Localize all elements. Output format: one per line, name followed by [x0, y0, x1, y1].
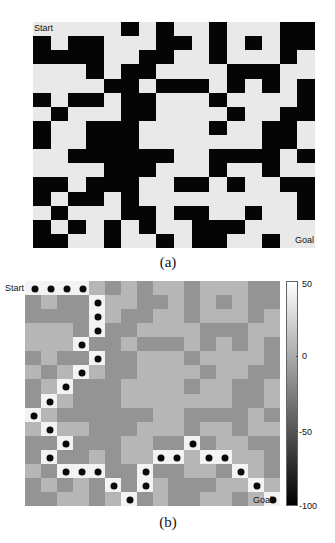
path-dot: [238, 468, 245, 475]
path-dots: [25, 281, 280, 506]
maze-cell: [280, 22, 298, 36]
maze-cell: [104, 135, 122, 149]
maze-cell: [86, 220, 104, 234]
maze-cell: [280, 135, 298, 149]
maze-cell: [121, 177, 139, 191]
maze-cell: [86, 234, 104, 248]
maze-cell: [174, 64, 192, 78]
maze-cell: [68, 220, 86, 234]
maze-cell: [156, 121, 174, 135]
maze-cell: [121, 163, 139, 177]
maze-cell: [174, 121, 192, 135]
maze-cell: [121, 149, 139, 163]
maze-cell: [227, 192, 245, 206]
maze-cell: [209, 192, 227, 206]
maze-cell: [121, 64, 139, 78]
maze-cell: [51, 36, 69, 50]
maze-cell: [227, 163, 245, 177]
maze-cell: [139, 192, 157, 206]
maze-cell: [33, 135, 51, 149]
maze-cell: [174, 177, 192, 191]
maze-cell: [156, 220, 174, 234]
maze-cell: [156, 22, 174, 36]
maze-cell: [262, 22, 280, 36]
path-dot: [222, 454, 229, 461]
maze-cell: [245, 93, 263, 107]
maze-cell: [192, 177, 210, 191]
path-dot: [46, 398, 53, 405]
path-dot: [62, 468, 69, 475]
path-dot: [190, 440, 197, 447]
maze-cell: [156, 93, 174, 107]
maze-cell: [297, 163, 315, 177]
maze-cell: [121, 93, 139, 107]
maze-cell: [51, 206, 69, 220]
maze-cell: [139, 79, 157, 93]
maze-cell: [245, 50, 263, 64]
maze-cell: [280, 107, 298, 121]
maze-cell: [33, 192, 51, 206]
maze-cell: [51, 50, 69, 64]
maze-cell: [262, 64, 280, 78]
maze-cell: [280, 121, 298, 135]
maze-cell: [51, 107, 69, 121]
maze-cell: [192, 50, 210, 64]
maze-cell: [156, 135, 174, 149]
maze-cell: [192, 79, 210, 93]
maze-cell: [156, 50, 174, 64]
maze-cell: [174, 93, 192, 107]
maze-cell: [33, 234, 51, 248]
maze-cell: [68, 206, 86, 220]
maze-cell: [86, 206, 104, 220]
maze-cell: [104, 192, 122, 206]
maze-cell: [68, 64, 86, 78]
maze-cell: [51, 234, 69, 248]
caption-a: (a): [148, 254, 188, 271]
maze-cell: [280, 220, 298, 234]
maze-cell: [297, 50, 315, 64]
maze-cell: [68, 79, 86, 93]
path-dot: [78, 468, 85, 475]
maze-cell: [121, 50, 139, 64]
maze-cell: [245, 220, 263, 234]
maze-cell: [139, 107, 157, 121]
maze-cell: [139, 177, 157, 191]
colorbar-tick-50: 50: [302, 280, 312, 289]
path-dot: [78, 370, 85, 377]
maze-cell: [51, 135, 69, 149]
maze-cell: [86, 50, 104, 64]
maze-cell: [297, 121, 315, 135]
maze-cell: [280, 64, 298, 78]
maze-cell: [174, 107, 192, 121]
maze-cell: [139, 135, 157, 149]
maze-cell: [139, 220, 157, 234]
maze-cell: [245, 163, 263, 177]
maze-cell: [174, 192, 192, 206]
caption-b: (b): [148, 514, 188, 531]
maze-cell: [51, 64, 69, 78]
maze-cell: [156, 107, 174, 121]
maze-cell: [192, 234, 210, 248]
goal-label-b: Goal: [253, 496, 272, 505]
maze-cell: [139, 22, 157, 36]
maze-cell: [86, 135, 104, 149]
maze-cell: [104, 107, 122, 121]
colorbar-tick-neg100: -100: [299, 502, 317, 511]
maze-cell: [156, 192, 174, 206]
maze-cell: [280, 177, 298, 191]
maze-cell: [227, 64, 245, 78]
maze-cell: [192, 192, 210, 206]
maze-cell: [104, 50, 122, 64]
maze-cell: [245, 177, 263, 191]
maze-cell: [174, 149, 192, 163]
maze-cell: [139, 163, 157, 177]
maze-cell: [297, 93, 315, 107]
path-dot: [206, 454, 213, 461]
maze-cell: [139, 36, 157, 50]
start-label-b: Start: [5, 284, 24, 293]
path-dot: [174, 454, 181, 461]
maze-cell: [192, 135, 210, 149]
maze-cell: [227, 206, 245, 220]
path-dot: [94, 328, 101, 335]
maze-cell: [68, 50, 86, 64]
